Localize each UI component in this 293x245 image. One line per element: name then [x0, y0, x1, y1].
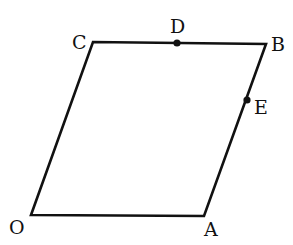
parallelogram-diagram: O A B C D E	[0, 0, 293, 245]
label-a: A	[203, 218, 218, 240]
point-e	[243, 96, 250, 103]
label-d: D	[170, 15, 185, 37]
label-b: B	[271, 33, 285, 55]
point-d	[173, 39, 180, 46]
label-e: E	[254, 96, 268, 118]
label-o: O	[9, 216, 25, 238]
label-c: C	[72, 31, 87, 53]
parallelogram-oabc	[31, 42, 266, 216]
